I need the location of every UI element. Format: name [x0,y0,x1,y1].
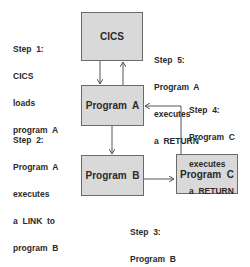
step-2-line: Step 2: [13,136,59,145]
step-5-line: a RETURN [154,137,200,146]
step-2-line: executes [13,190,59,199]
step-1-line: loads [13,99,58,108]
step-4-line: a RETURN [189,187,235,196]
step-2-line: Program A [13,163,59,172]
step-2-line: a LINK to [13,217,59,226]
step-5-line: executes [154,110,200,119]
step-5-line: Program A [154,83,200,92]
step-5-line: Step 5: [154,56,200,65]
step-2-line: program B [13,244,59,253]
step-2-text: Step 2: Program A executes a LINK to pro… [13,118,59,262]
step-4-line: executes [189,160,235,169]
step-3-text: Step 3: Program B executes an XCTL to pr… [130,210,179,267]
step-1-line: CICS [13,72,58,81]
step-3-line: Step 3: [130,228,179,237]
step-1-line: Step 1: [13,45,58,54]
step-3-line: Program B [130,255,179,264]
step-5-text: Step 5: Program A executes a RETURN [154,38,200,155]
